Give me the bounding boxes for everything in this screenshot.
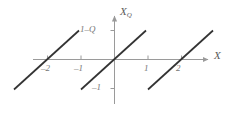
x-axis-label: X xyxy=(214,50,221,61)
y-axis-label-subscript: Q xyxy=(127,11,132,19)
x-tick-label-minus-2: –2 xyxy=(41,64,50,73)
y-tick-label-one-minus-q: 1–Q xyxy=(80,25,96,34)
plot-area xyxy=(0,0,235,116)
x-tick-label-plus-2: 2 xyxy=(176,64,181,73)
y-axis-label: XQ xyxy=(120,6,132,19)
x-tick-label-plus-1: 1 xyxy=(144,64,149,73)
quantizer-transfer-function-figure: X XQ –2 –1 1 2 1–Q –1 xyxy=(0,0,235,116)
y-axis-label-base: X xyxy=(120,5,127,17)
x-tick-label-minus-1: –1 xyxy=(74,64,83,73)
y-tick-label-minus-1: –1 xyxy=(92,83,101,92)
